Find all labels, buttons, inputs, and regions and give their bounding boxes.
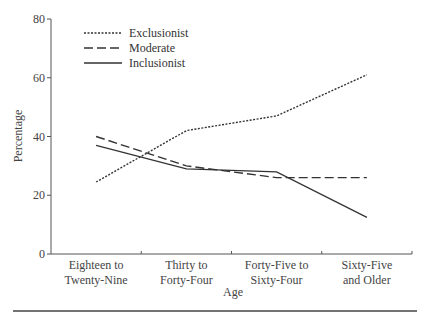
data-lines bbox=[96, 75, 367, 218]
legend-label: Exclusionist bbox=[129, 26, 189, 40]
series-line-exclusionist bbox=[96, 75, 367, 182]
axes bbox=[51, 19, 412, 254]
y-tick-label: 40 bbox=[33, 130, 45, 144]
x-category-label: Forty-Five toSixty-Four bbox=[245, 258, 309, 287]
y-tick-label: 60 bbox=[33, 71, 45, 85]
line-chart: 020406080 Eighteen toTwenty-NineThirty t… bbox=[0, 0, 427, 319]
legend: ExclusionistModerateInclusionist bbox=[84, 26, 189, 70]
x-category-label: Eighteen toTwenty-Nine bbox=[65, 258, 128, 287]
x-category-label: Thirty toForty-Four bbox=[160, 258, 213, 287]
x-axis-title: Age bbox=[223, 285, 243, 299]
x-category-labels: Eighteen toTwenty-NineThirty toForty-Fou… bbox=[65, 251, 412, 287]
y-ticks: 020406080 bbox=[33, 12, 51, 261]
y-tick-label: 0 bbox=[39, 247, 45, 261]
x-category-label: Sixty-Fiveand Older bbox=[342, 258, 393, 287]
series-line-moderate bbox=[96, 137, 367, 178]
legend-label: Inclusionist bbox=[129, 56, 186, 70]
y-tick-label: 20 bbox=[33, 188, 45, 202]
y-axis-title: Percentage bbox=[11, 110, 25, 163]
legend-label: Moderate bbox=[129, 41, 175, 55]
y-tick-label: 80 bbox=[33, 12, 45, 26]
series-line-inclusionist bbox=[96, 145, 367, 217]
